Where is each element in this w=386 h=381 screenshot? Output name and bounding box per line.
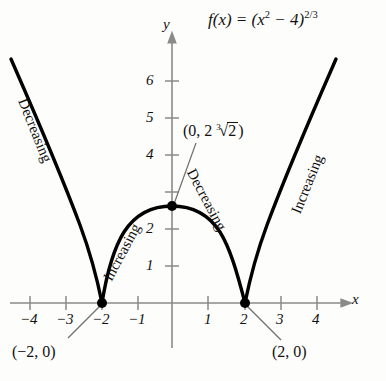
- y-tick-label-2: 2: [146, 221, 154, 236]
- x-axis-label: x: [352, 292, 359, 307]
- formula-fx: f(x): [208, 10, 232, 29]
- point-label-peak: (0, 23√2): [183, 122, 244, 140]
- point-label-right-zero: (2, 0): [272, 344, 307, 360]
- cube-root-symbol: 3√2: [212, 122, 238, 140]
- y-tick-label-4: 4: [146, 147, 154, 162]
- x-tick-label-3: 3: [276, 312, 284, 327]
- y-axis-label: y: [163, 17, 170, 32]
- x-tick-label-2: 2: [240, 312, 248, 327]
- cube-root-radicand: 2: [227, 122, 238, 139]
- point-marker-right-zero: [240, 298, 250, 308]
- x-tick-label-neg2: −2: [92, 312, 110, 327]
- point-marker-left-zero: [97, 298, 107, 308]
- x-tick-label-1: 1: [204, 312, 212, 327]
- curve-branch-outer-right: [245, 59, 336, 303]
- y-tick-label-1: 1: [146, 258, 154, 273]
- cube-root-index: 3: [216, 122, 221, 132]
- x-tick-label-4: 4: [312, 312, 320, 327]
- formula-four: 4: [290, 10, 299, 29]
- curve-branch-outer-left: [11, 59, 102, 303]
- formula-outer-exponent: 2/3: [304, 9, 317, 20]
- function-formula: f(x) = (x2 − 4)2/3: [208, 10, 318, 28]
- x-tick-label-neg1: −1: [128, 312, 146, 327]
- formula-equals: =: [236, 10, 247, 29]
- formula-minus: −: [274, 10, 285, 29]
- graph-figure: f(x) = (x2 − 4)2/3 x y −4 −3 −2 −1 1 2 3…: [0, 0, 386, 381]
- y-tick-label-5: 5: [146, 110, 154, 125]
- y-tick-label-6: 6: [146, 73, 154, 88]
- x-tick-label-neg3: −3: [56, 312, 74, 327]
- point-marker-peak: [167, 201, 177, 211]
- formula-variable: x: [257, 10, 265, 29]
- point-label-left-zero: (−2, 0): [12, 344, 56, 360]
- peak-label-close: ): [238, 122, 243, 139]
- peak-label-open: (0, 2: [183, 122, 212, 139]
- x-tick-label-neg4: −4: [20, 312, 38, 327]
